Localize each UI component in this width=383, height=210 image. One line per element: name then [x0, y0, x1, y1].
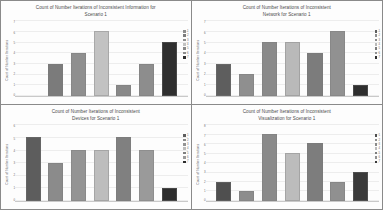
legend-swatch-icon [183, 161, 186, 164]
bar [162, 188, 177, 201]
bar [239, 74, 254, 96]
legend-swatch-icon [183, 143, 186, 146]
legend-swatch-icon [375, 147, 378, 150]
legend-label: 1 [187, 30, 189, 33]
plot-area [15, 20, 188, 97]
bar [162, 42, 177, 96]
legend-label: 4 [187, 147, 189, 150]
legend-label: 4 [187, 43, 189, 46]
legend-label: 6 [187, 156, 189, 159]
chart-panel-information: Count of Number Iterations of Inconsiste… [0, 0, 192, 105]
bar [94, 31, 109, 96]
plot-area-wrap [15, 123, 188, 206]
plot-area-wrap [15, 19, 188, 101]
legend-label: 1 [378, 134, 380, 137]
legend-label: 7 [378, 56, 380, 59]
legend-label: 7 [187, 160, 189, 163]
bar [353, 85, 368, 96]
chart-title-line2: Network for Scenario 1 [263, 12, 311, 17]
legend-swatch-icon [375, 152, 378, 155]
legend-label: 5 [378, 47, 380, 50]
bar [216, 64, 231, 96]
legend-swatch-icon [183, 152, 186, 155]
legend-label: 1 [378, 30, 380, 33]
bar [216, 182, 231, 201]
legend-item: 5 [183, 152, 188, 155]
legend-label: 6 [378, 156, 380, 159]
chart-grid: Count of Number Iterations of Inconsiste… [0, 0, 383, 210]
legend-label: 7 [378, 160, 380, 163]
plot-area [206, 20, 380, 97]
chart-title-devices: Count of Number Iterations of Inconsiste… [4, 107, 188, 123]
bar [139, 150, 154, 201]
bar [330, 182, 345, 201]
chart-title-visualization: Count of Number Iterations of Inconsiste… [195, 107, 380, 123]
bar [307, 53, 322, 96]
chart-legend: 1234567 [375, 30, 380, 59]
legend-item: 4 [375, 147, 380, 150]
bar [48, 64, 63, 96]
legend-item: 5 [183, 47, 188, 50]
y-axis-label: Count of Number Iterations [4, 19, 10, 101]
legend-item: 6 [375, 156, 380, 159]
chart-title-line1: Count of Number Iterations of Inconsiste… [36, 5, 156, 10]
legend-swatch-icon [375, 30, 378, 33]
legend-item: 2 [183, 34, 188, 37]
bar [48, 163, 63, 201]
legend-swatch-icon [375, 47, 378, 50]
legend-item: 1 [375, 134, 380, 137]
legend-swatch-icon [183, 43, 186, 46]
legend-swatch-icon [183, 52, 186, 55]
bar [116, 85, 131, 96]
legend-label: 7 [187, 56, 189, 59]
legend-swatch-icon [375, 143, 378, 146]
legend-label: 2 [378, 34, 380, 37]
legend-item: 6 [183, 52, 188, 55]
legend-item: 6 [183, 156, 188, 159]
legend-item: 7 [183, 160, 188, 163]
legend-label: 2 [187, 139, 189, 142]
chart-title-information: Count of Number Iterations of Inconsiste… [4, 3, 188, 19]
legend-item: 6 [375, 52, 380, 55]
chart-title-line1: Count of Number Iterations of Inconsiste… [52, 109, 140, 114]
legend-label: 6 [378, 52, 380, 55]
legend-swatch-icon [375, 52, 378, 55]
legend-label: 3 [378, 39, 380, 42]
bar [262, 42, 277, 96]
legend-swatch-icon [183, 39, 186, 42]
legend-swatch-icon [183, 156, 186, 159]
legend-item: 3 [375, 39, 380, 42]
bar [239, 191, 254, 201]
legend-item: 2 [183, 139, 188, 142]
legend-item: 4 [183, 147, 188, 150]
legend-label: 3 [187, 143, 189, 146]
legend-swatch-icon [375, 39, 378, 42]
chart-legend: 1234567 [183, 30, 188, 59]
legend-item: 7 [375, 160, 380, 163]
chart-body: Count of Number Iterations 6543210 [4, 123, 188, 206]
bar [116, 137, 131, 201]
chart-title-line1: Count of Number Iterations of Inconsiste… [243, 109, 331, 114]
chart-legend: 1234567 [183, 134, 188, 163]
legend-item: 3 [375, 143, 380, 146]
bar [285, 42, 300, 96]
legend-label: 3 [187, 39, 189, 42]
legend-swatch-icon [375, 139, 378, 142]
legend-label: 4 [378, 43, 380, 46]
chart-panel-devices: Count of Number Iterations of Inconsiste… [0, 105, 192, 210]
legend-item: 1 [183, 30, 188, 33]
legend-label: 5 [187, 152, 189, 155]
chart-title-network: Count of Number Iterations of Inconsiste… [195, 3, 380, 19]
legend-swatch-icon [183, 47, 186, 50]
plot-area [206, 124, 380, 202]
bar [307, 143, 322, 201]
legend-swatch-icon [375, 56, 378, 59]
bar [71, 150, 86, 201]
legend-item: 1 [375, 30, 380, 33]
legend-item: 7 [375, 56, 380, 59]
legend-swatch-icon [375, 43, 378, 46]
bar-series [22, 20, 181, 96]
legend-swatch-icon [183, 30, 186, 33]
legend-item: 3 [183, 39, 188, 42]
chart-title-line2: Scenario 1 [85, 12, 107, 17]
